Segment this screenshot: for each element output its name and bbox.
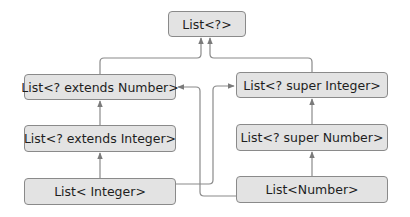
edge-number-to-extends-number: [178, 87, 236, 196]
node-list-super-number: List<? super Number>: [236, 124, 388, 151]
edge-extends-number-to-wildcard: [100, 38, 201, 74]
node-list-extends-integer: List<? extends Integer>: [24, 125, 176, 152]
node-list-wildcard: List<?>: [168, 11, 246, 37]
node-list-integer: List< Integer>: [24, 178, 176, 205]
edge-super-integer-to-wildcard: [210, 38, 312, 72]
node-list-extends-number: List<? extends Number>: [24, 74, 176, 100]
edge-integer-to-super-integer: [176, 86, 234, 184]
node-list-number: List<Number>: [236, 176, 388, 203]
node-list-super-integer: List<? super Integer>: [236, 72, 388, 98]
